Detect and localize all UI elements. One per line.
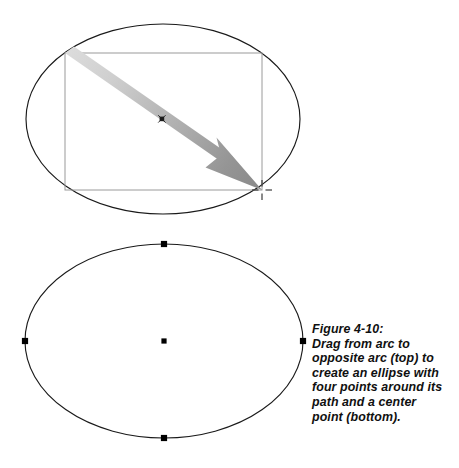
ellipse-point-right[interactable] xyxy=(300,338,306,344)
caption-label: Figure 4-10: xyxy=(312,322,457,337)
figure-page: Figure 4-10: Drag from arc to opposite a… xyxy=(0,0,459,468)
figure-caption: Figure 4-10: Drag from arc to opposite a… xyxy=(312,322,457,424)
ellipse-point-top[interactable] xyxy=(161,241,167,247)
ellipse-point-center[interactable] xyxy=(161,338,166,343)
bottom-diagram-group xyxy=(22,241,306,441)
caption-line-3: create an ellipse with xyxy=(312,366,457,381)
ellipse-point-left[interactable] xyxy=(22,338,28,344)
caption-line-5: path and a center xyxy=(312,395,457,410)
caption-line-4: four points around its xyxy=(312,380,457,395)
caption-line-2: opposite arc (top) to xyxy=(312,351,457,366)
ellipse-point-bottom[interactable] xyxy=(161,435,167,441)
caption-line-6: point (bottom). xyxy=(312,410,457,425)
top-diagram-group xyxy=(26,24,300,214)
caption-line-1: Drag from arc to xyxy=(312,337,457,352)
